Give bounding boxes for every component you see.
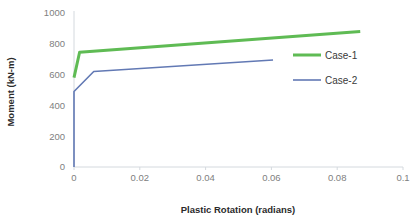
y-tick-label: 1000 <box>44 7 65 18</box>
x-tick-label: 0.1 <box>396 172 409 183</box>
x-tick-label: 0.06 <box>262 172 281 183</box>
y-tick-label: 400 <box>49 100 65 111</box>
legend-label-case-2: Case-2 <box>325 75 358 86</box>
x-tick-label: 0.04 <box>196 172 215 183</box>
x-axis-title: Plastic Rotation (radians) <box>181 204 296 215</box>
series-line-case-2 <box>74 60 273 167</box>
x-tick-label: 0.02 <box>131 172 150 183</box>
x-tick-label: 0 <box>71 172 76 183</box>
axis-lines <box>74 11 403 167</box>
y-axis-title: Moment (kN-m) <box>5 57 16 126</box>
series-lines <box>74 31 360 167</box>
y-tick-label: 0 <box>60 161 65 172</box>
chart-legend: Case-1Case-2 <box>293 50 358 86</box>
y-tick-label: 600 <box>49 69 65 80</box>
chart-container: 02004006008001000 00.020.040.060.080.1 C… <box>0 0 413 220</box>
line-chart: 02004006008001000 00.020.040.060.080.1 C… <box>0 0 413 220</box>
y-axis-tick-labels: 02004006008001000 <box>44 7 65 172</box>
x-tick-label: 0.08 <box>328 172 347 183</box>
y-tick-label: 200 <box>49 131 65 142</box>
x-axis-tick-labels: 00.020.040.060.080.1 <box>71 172 409 183</box>
legend-label-case-1: Case-1 <box>325 50 358 61</box>
y-tick-label: 800 <box>49 38 65 49</box>
